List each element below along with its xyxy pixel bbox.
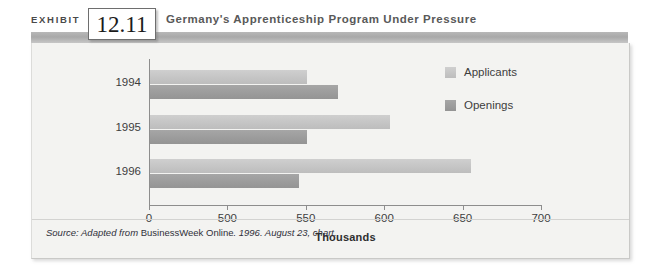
source-divider <box>32 219 629 220</box>
bar-openings <box>150 85 338 99</box>
x-axis-tick <box>149 205 150 210</box>
source-prefix: Source: Adapted from <box>46 227 141 238</box>
category-label: 1995 <box>115 121 141 133</box>
x-axis-tick-label: 600 <box>375 212 394 224</box>
legend-item-applicants: Applicants <box>445 65 517 79</box>
x-axis-tick-label: 500 <box>218 212 237 224</box>
x-axis-tick-label: 0 <box>146 212 152 224</box>
x-axis-tick <box>306 205 307 210</box>
x-axis-tick <box>227 205 228 210</box>
exhibit-number-box: 12.11 <box>88 8 156 40</box>
legend-label-openings: Openings <box>464 99 513 111</box>
bar-applicants <box>150 159 471 173</box>
bar-applicants <box>150 70 307 84</box>
x-axis-tick <box>384 205 385 210</box>
chart-legend: Applicants Openings <box>445 65 517 131</box>
source-note: Source: Adapted from BusinessWeek Online… <box>46 227 337 238</box>
bar-applicants <box>150 115 390 129</box>
exhibit-header: EXHIBIT 12.11 Germany's Apprenticeship P… <box>0 0 662 48</box>
bar-openings <box>150 130 307 144</box>
source-suffix: . 1996. August 23, chart. <box>233 227 336 238</box>
legend-swatch-openings <box>445 100 456 111</box>
chart-panel: 1994 1995 1996 0500550600650700 Thousand… <box>31 43 630 259</box>
category-label: 1996 <box>115 165 141 177</box>
x-axis-tick-label: 650 <box>453 212 472 224</box>
x-axis-line <box>149 205 542 206</box>
x-axis-tick-label: 550 <box>296 212 315 224</box>
x-axis-tick <box>541 205 542 210</box>
source-publication: BusinessWeek Online <box>141 227 234 238</box>
category-label: 1994 <box>115 76 141 88</box>
legend-label-applicants: Applicants <box>464 66 517 78</box>
exhibit-number: 12.11 <box>97 13 148 36</box>
bar-openings <box>150 174 299 188</box>
x-axis-tick <box>463 205 464 210</box>
exhibit-label: EXHIBIT <box>31 14 80 25</box>
exhibit-title: Germany's Apprenticeship Program Under P… <box>166 13 477 25</box>
legend-item-openings: Openings <box>445 98 517 112</box>
legend-swatch-applicants <box>445 67 456 78</box>
x-axis-tick-label: 700 <box>531 212 550 224</box>
